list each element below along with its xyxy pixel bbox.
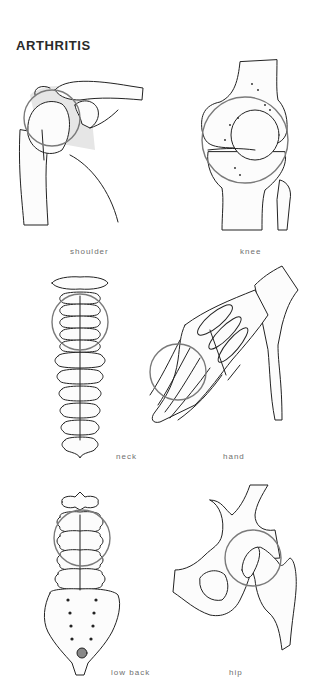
hip-illustration [173, 485, 296, 650]
shoulder-illustration [19, 81, 143, 225]
figure-label-low-back: low back [111, 668, 150, 677]
figure-label-shoulder: shoulder [70, 247, 109, 256]
figure-label-hip: hip [229, 668, 243, 677]
figure-label-neck: neck [116, 452, 137, 461]
anatomy-illustrations [0, 0, 313, 682]
figure-label-knee: knee [240, 247, 261, 256]
knee-illustration [202, 60, 291, 230]
low-back-illustration [44, 492, 119, 675]
hand-illustration [150, 266, 298, 422]
figure-label-hand: hand [223, 452, 245, 461]
neck-illustration [52, 277, 108, 458]
